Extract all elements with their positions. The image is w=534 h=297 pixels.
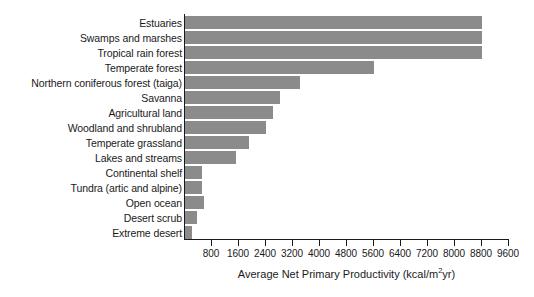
x-axis-tick [292, 240, 293, 246]
category-label: Tropical rain forest [97, 47, 182, 59]
category-label: Extreme desert [112, 227, 182, 239]
category-label: Temperate grassland [86, 137, 182, 149]
bar [185, 151, 236, 164]
x-axis-tick [211, 240, 212, 246]
bar-row: Estuaries [0, 15, 534, 30]
x-axis-tick [481, 240, 482, 246]
x-axis-tick [319, 240, 320, 246]
bar-rows: EstuariesSwamps and marshesTropical rain… [0, 0, 534, 239]
bar-row: Northern coniferous forest (taiga) [0, 75, 534, 90]
x-axis-tick-label: 5600 [362, 248, 384, 260]
bar [185, 211, 197, 224]
x-axis-tick-label: 2400 [254, 248, 276, 260]
bar [185, 91, 280, 104]
x-axis-tick [427, 240, 428, 246]
x-axis-tick [373, 240, 374, 246]
x-axis-tick-label: 8800 [470, 248, 492, 260]
x-axis-tick [265, 240, 266, 246]
x-axis-tick-label: 800 [203, 248, 220, 260]
category-label: Open ocean [126, 197, 182, 209]
bar [185, 31, 482, 44]
bar [185, 181, 202, 194]
bar-row: Extreme desert [0, 225, 534, 240]
bar [185, 76, 300, 89]
category-label: Tundra (artic and alpine) [70, 182, 182, 194]
bar-row: Swamps and marshes [0, 30, 534, 45]
bar-row: Tundra (artic and alpine) [0, 180, 534, 195]
x-axis-tick [400, 240, 401, 246]
category-label: Estuaries [139, 17, 182, 29]
x-axis-tick-label: 4800 [335, 248, 357, 260]
category-label: Continental shelf [105, 167, 182, 179]
bar-row: Agricultural land [0, 105, 534, 120]
x-axis-tick-label: 9600 [497, 248, 519, 260]
category-label: Swamps and marshes [80, 32, 182, 44]
category-label: Agricultural land [108, 107, 182, 119]
x-axis-tick [346, 240, 347, 246]
bar [185, 196, 204, 209]
category-label: Lakes and streams [95, 152, 182, 164]
category-label: Northern coniferous forest (taiga) [31, 77, 182, 89]
bar-row: Tropical rain forest [0, 45, 534, 60]
x-axis-tick-label: 7200 [416, 248, 438, 260]
bar [185, 16, 482, 29]
bar-row: Open ocean [0, 195, 534, 210]
bar-row: Desert scrub [0, 210, 534, 225]
bar-row: Savanna [0, 90, 534, 105]
bar [185, 166, 202, 179]
bar [185, 106, 273, 119]
x-axis-tick-label: 4000 [308, 248, 330, 260]
bar-row: Continental shelf [0, 165, 534, 180]
category-label: Savanna [141, 92, 182, 104]
bar [185, 121, 266, 134]
bar-row: Temperate forest [0, 60, 534, 75]
category-label: Woodland and shrubland [68, 122, 182, 134]
x-axis-tick-label: 1600 [227, 248, 249, 260]
x-axis-tick-label: 8000 [443, 248, 465, 260]
bar [185, 61, 374, 74]
x-axis-tick-label: 6400 [389, 248, 411, 260]
x-axis-title: Average Net Primary Productivity (kcal/m… [184, 267, 509, 281]
x-axis-title-prefix: Average Net Primary Productivity (kcal/m [238, 268, 438, 280]
bar [185, 46, 482, 59]
bar-row: Temperate grassland [0, 135, 534, 150]
category-label: Desert scrub [124, 212, 182, 224]
bar [185, 226, 192, 239]
bar [185, 136, 249, 149]
bar-row: Woodland and shrubland [0, 120, 534, 135]
x-axis-tick [238, 240, 239, 246]
category-label: Temperate forest [105, 62, 182, 74]
bar-chart: EstuariesSwamps and marshesTropical rain… [0, 0, 534, 297]
x-axis-tick [454, 240, 455, 246]
x-axis-tick-label: 3200 [281, 248, 303, 260]
bar-row: Lakes and streams [0, 150, 534, 165]
x-axis-title-suffix: yr) [442, 268, 455, 280]
x-axis-tick [508, 240, 509, 246]
